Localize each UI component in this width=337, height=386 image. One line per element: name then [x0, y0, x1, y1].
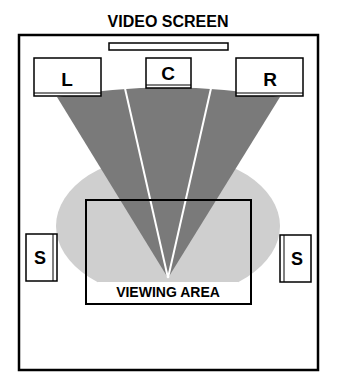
speaker-left: L [34, 58, 101, 96]
speaker-center-label: C [161, 63, 175, 84]
speaker-left-label: L [61, 69, 73, 90]
viewing-area-label: VIEWING AREA [116, 284, 220, 300]
speaker-surround-right: S [280, 235, 311, 282]
speaker-surround-right-label: S [291, 249, 303, 269]
speaker-center: C [146, 58, 191, 88]
speaker-right-label: R [263, 69, 277, 90]
home-theater-diagram: VIDEO SCREEN VIEWING AREA L C R S S [0, 0, 337, 386]
speaker-surround-left: S [26, 234, 57, 281]
diagram-title: VIDEO SCREEN [108, 13, 229, 30]
speaker-right: R [236, 58, 303, 96]
speaker-surround-left-label: S [34, 248, 46, 268]
video-screen [109, 43, 228, 50]
